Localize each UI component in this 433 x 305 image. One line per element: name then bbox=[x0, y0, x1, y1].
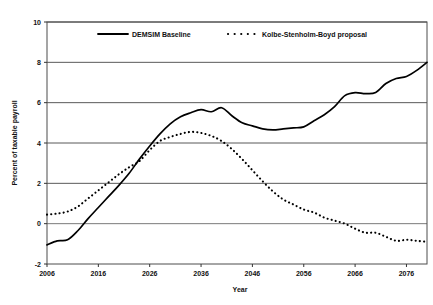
x-tick-label: 2046 bbox=[245, 270, 261, 277]
line-chart: -20246810 200620162026203620462056206620… bbox=[0, 0, 433, 305]
legend-label-1: DEMSIM Baseline bbox=[132, 31, 191, 38]
y-tick-label: -2 bbox=[35, 261, 41, 268]
x-tick-label: 2056 bbox=[296, 270, 312, 277]
legend-label-2: Kolbe-Stenholm-Boyd proposal bbox=[262, 31, 367, 39]
x-tick-label: 2066 bbox=[347, 270, 363, 277]
y-tick-label: 6 bbox=[37, 99, 41, 106]
x-tick-label: 2076 bbox=[399, 270, 415, 277]
y-tick-label: 8 bbox=[37, 59, 41, 66]
y-tick-label: 2 bbox=[37, 180, 41, 187]
x-axis-title: Year bbox=[233, 286, 248, 293]
x-tick-label: 2036 bbox=[193, 270, 209, 277]
chart-container: -20246810 200620162026203620462056206620… bbox=[0, 0, 433, 305]
x-tick-label: 2006 bbox=[39, 270, 55, 277]
x-tick-label: 2026 bbox=[142, 270, 158, 277]
chart-background bbox=[0, 0, 433, 305]
y-tick-label: 0 bbox=[37, 220, 41, 227]
y-tick-label: 10 bbox=[33, 19, 41, 26]
y-axis-title: Percent of taxable payroll bbox=[11, 100, 19, 185]
x-tick-label: 2016 bbox=[91, 270, 107, 277]
y-tick-label: 4 bbox=[37, 140, 41, 147]
